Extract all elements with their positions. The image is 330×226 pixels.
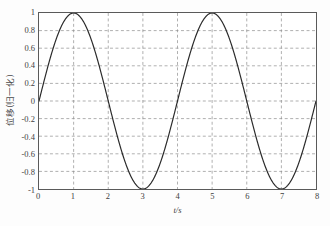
x-axis-title-text: t/s: [173, 205, 181, 215]
y-tick-label: -0.4: [22, 132, 35, 141]
x-tick-label: 5: [210, 192, 214, 201]
x-tick-label: 2: [106, 192, 110, 201]
y-tick-label: -1: [28, 186, 35, 195]
x-axis-title: t/s: [38, 205, 317, 215]
y-tick-label: 1: [31, 8, 35, 17]
y-tick-label: 0.4: [24, 61, 35, 70]
y-tick-label: 0.6: [24, 43, 35, 52]
chart-figure: 位移(归一化) -1-0.8-0.6-0.4-0.200.20.40.60.81…: [0, 0, 330, 226]
x-tick-label: 6: [245, 192, 249, 201]
x-axis-tick-labels: 012345678: [38, 192, 317, 206]
y-tick-label: 0.8: [24, 26, 35, 35]
y-tick-label: -0.6: [22, 150, 35, 159]
x-tick-label: 0: [36, 192, 40, 201]
y-tick-label: -0.8: [22, 168, 35, 177]
plot-area: [38, 12, 317, 190]
y-tick-label: -0.2: [22, 115, 35, 124]
y-axis-tick-labels: -1-0.8-0.6-0.4-0.200.20.40.60.81: [13, 12, 37, 190]
y-tick-label: 0.2: [24, 79, 35, 88]
y-tick-label: 0: [31, 97, 35, 106]
x-tick-label: 3: [141, 192, 145, 201]
x-tick-label: 8: [315, 192, 319, 201]
x-tick-label: 4: [175, 192, 179, 201]
plot-svg: [39, 13, 316, 189]
x-tick-label: 1: [71, 192, 75, 201]
x-tick-label: 7: [280, 192, 284, 201]
